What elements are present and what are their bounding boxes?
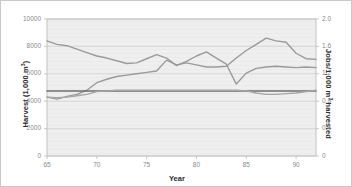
y-axis-left-tick-label: 10000 (1, 15, 41, 22)
y-axis-right-tick-label: 0 (322, 152, 326, 159)
x-axis-tick-label: 80 (182, 161, 210, 168)
y-axis-left-title: Harvest (1,000 m3) (20, 34, 31, 154)
y-axis-left-tick-label: 4000 (1, 97, 41, 104)
x-axis-tick-label: 90 (282, 161, 310, 168)
y-axis-left-tick-label: 0 (1, 152, 41, 159)
x-axis-tick-label: 75 (133, 161, 161, 168)
x-axis-tick-label: 70 (83, 161, 111, 168)
y-axis-right-title: Jobs/1,000 m3 harvested (324, 34, 335, 154)
x-axis-tick-label: 65 (33, 161, 61, 168)
chart-figure: Harvest (1,000 m3) Jobs/1,000 m3 harvest… (0, 0, 352, 187)
y-axis-right-tick-label: 0.8 (322, 97, 331, 104)
x-axis-title: Year (1, 174, 352, 183)
y-axis-left-tick-label: 6000 (1, 69, 41, 76)
x-axis-tick-label: 85 (232, 161, 260, 168)
y-axis-left-tick-label: 2000 (1, 124, 41, 131)
y-axis-right-tick-label: 1.2 (322, 69, 331, 76)
y-axis-right-tick-label: 2.0 (322, 15, 331, 22)
y-axis-right-tick-label: 0.4 (322, 124, 331, 131)
y-axis-left-tick-label: 8000 (1, 42, 41, 49)
chart-plot-svg (1, 1, 352, 187)
y-axis-right-tick-label: 1.6 (322, 42, 331, 49)
